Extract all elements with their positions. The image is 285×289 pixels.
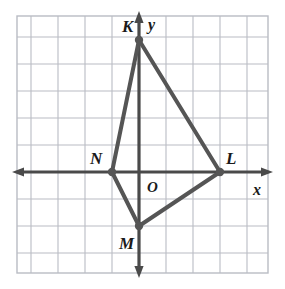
origin-label: O bbox=[147, 180, 158, 195]
figure-canvas bbox=[0, 0, 285, 289]
coordinate-plane-figure: K L M N O x y bbox=[0, 0, 285, 289]
x-axis-label: x bbox=[253, 182, 261, 198]
vertex-label-m: M bbox=[119, 235, 134, 252]
y-axis-label: y bbox=[148, 17, 155, 33]
vertex-label-k: K bbox=[122, 18, 133, 35]
grid-lines bbox=[17, 16, 268, 273]
vertex-label-n: N bbox=[90, 150, 102, 167]
vertex-label-l: L bbox=[226, 150, 236, 167]
